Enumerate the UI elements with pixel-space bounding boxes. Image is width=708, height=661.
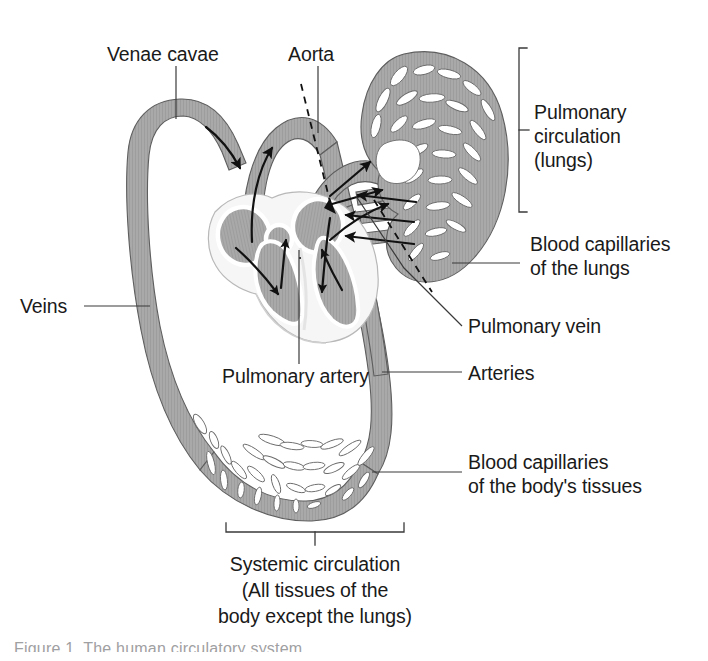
cut-off-figure-caption: Figure 1 The human circulatory system [14,640,302,652]
label-systemic-circulation-line2: (All tissues of the [155,578,475,602]
label-blood-capillaries-lungs-line1: Blood capillaries [530,232,670,256]
label-pulmonary-circulation-line1: Pulmonary [534,100,626,124]
label-veins: Veins [20,294,67,318]
label-systemic-circulation-line1: Systemic circulation [155,552,475,576]
label-pulmonary-artery: Pulmonary artery [222,364,369,388]
label-systemic-circulation-line3: body except the lungs) [155,604,475,628]
label-blood-capillaries-body-line1: Blood capillaries [468,450,608,474]
label-venae-cavae: Venae cavae [107,42,219,66]
bracket-systemic-circulation [226,523,404,532]
label-aorta: Aorta [288,42,334,66]
label-blood-capillaries-body-line2: of the body's tissues [468,474,642,498]
label-blood-capillaries-lungs-line2: of the lungs [530,256,630,280]
vessel-venae-cavae-and-veins [127,99,246,470]
label-arteries: Arteries [468,361,534,385]
label-pulmonary-circulation-line2: circulation [534,124,621,148]
label-pulmonary-vein: Pulmonary vein [468,314,601,338]
heart [208,192,378,343]
label-pulmonary-circulation-line3: (lungs) [534,148,593,172]
circulatory-system-figure: Venae cavae Aorta Veins Pulmonary artery… [0,0,708,661]
